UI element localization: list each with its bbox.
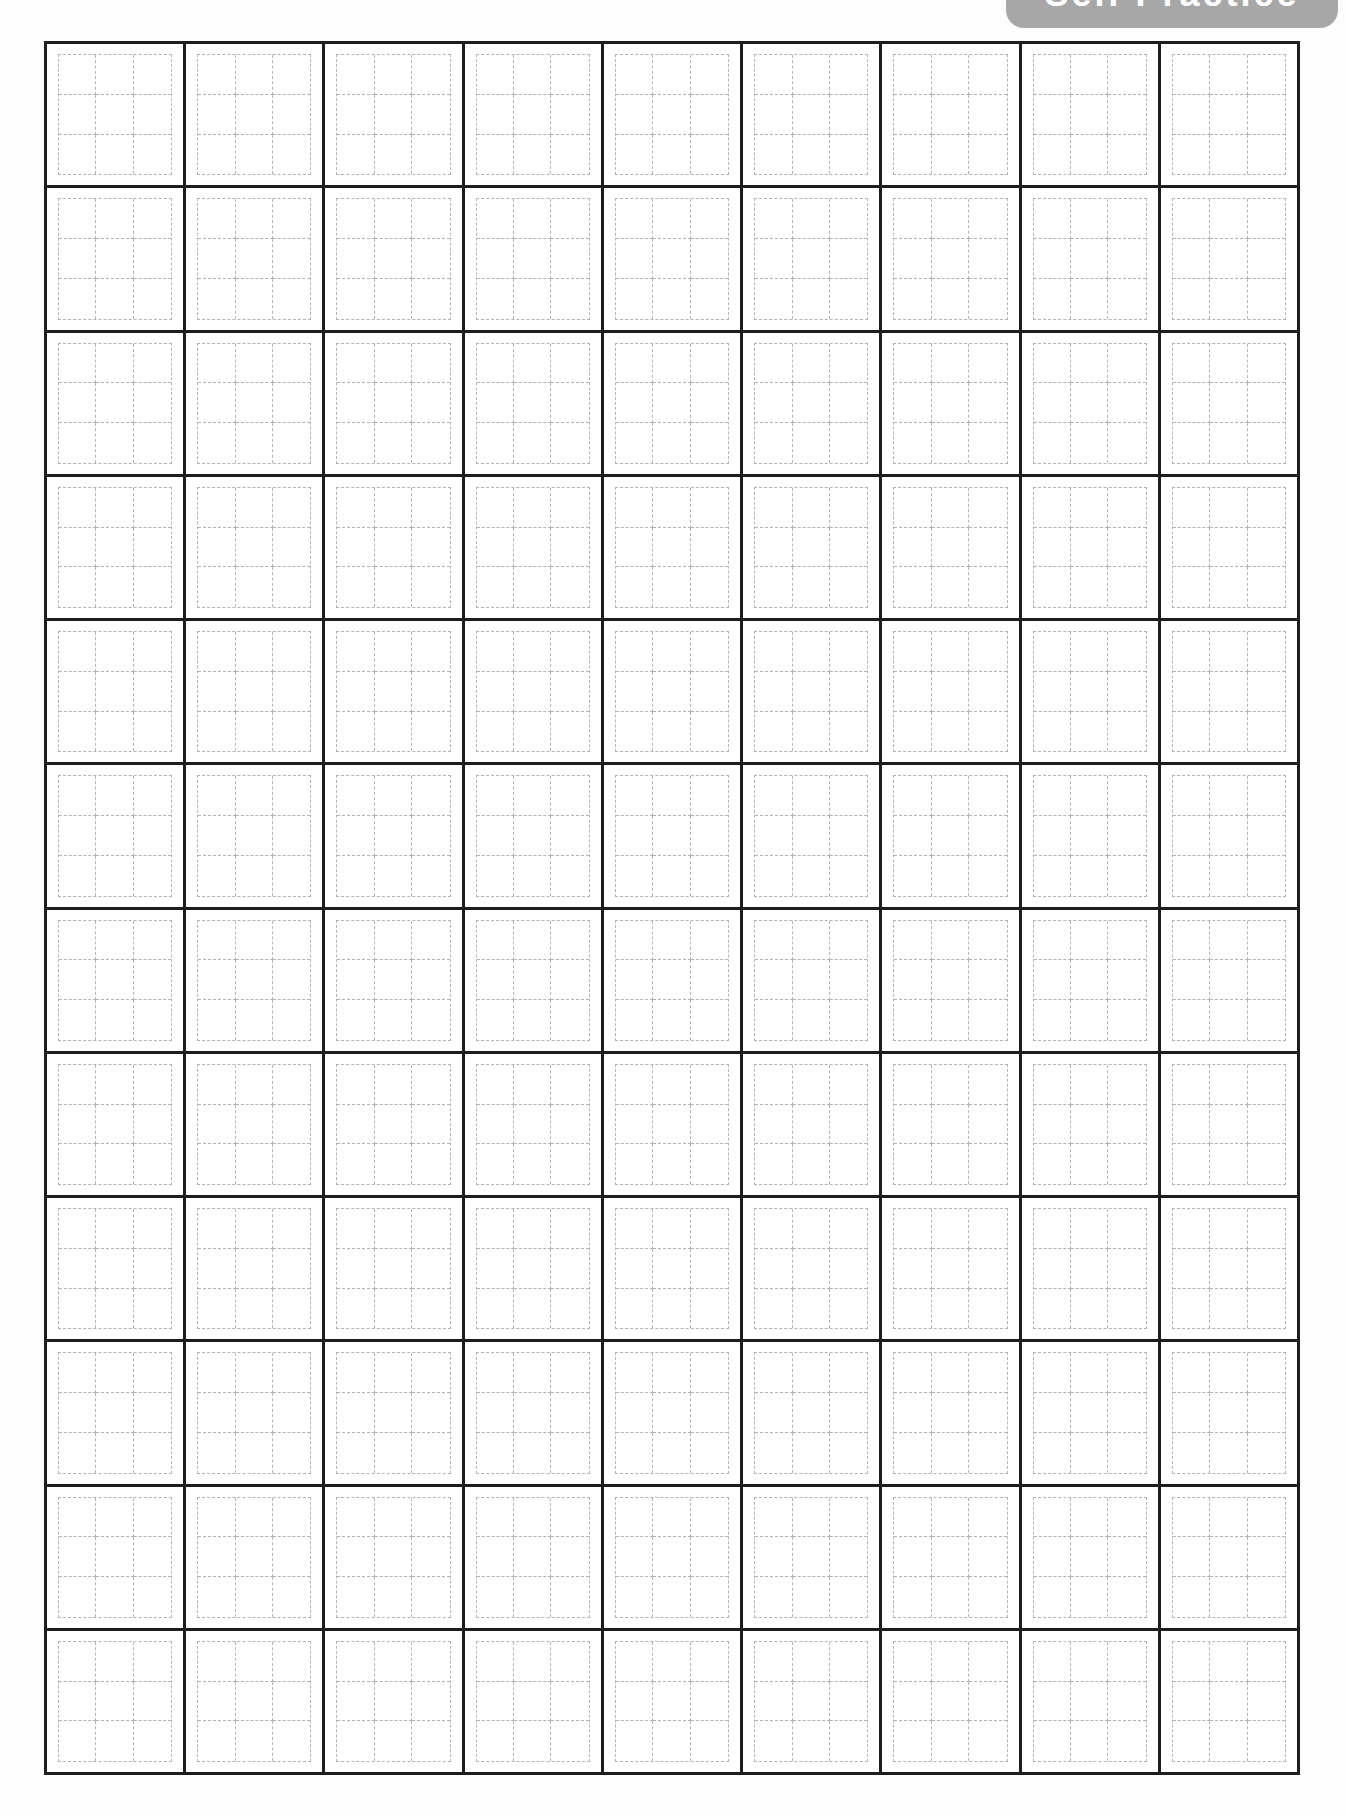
guide-sub-square <box>412 1065 449 1105</box>
guide-sub-square <box>477 1577 514 1617</box>
guide-sub-square <box>96 960 133 1000</box>
guide-sub-square <box>1108 55 1145 95</box>
guide-sub-square <box>337 239 374 279</box>
guide-sub-square <box>477 383 514 423</box>
guide-sub-square <box>514 1642 551 1682</box>
practice-cell <box>186 910 322 1051</box>
guide-sub-square <box>96 95 133 135</box>
guide-sub-square <box>969 528 1006 568</box>
guide-sub-square <box>198 1433 235 1473</box>
guide-sub-square <box>1173 921 1210 961</box>
guide-sub-square <box>894 55 931 95</box>
nine-square-guide <box>1172 1641 1286 1762</box>
guide-sub-square <box>59 95 96 135</box>
nine-square-guide <box>754 775 868 896</box>
guide-sub-square <box>830 1249 867 1289</box>
guide-sub-square <box>969 423 1006 463</box>
guide-sub-square <box>477 1537 514 1577</box>
guide-sub-square <box>198 712 235 752</box>
guide-sub-square <box>691 1105 728 1145</box>
guide-sub-square <box>96 1000 133 1040</box>
guide-sub-square <box>236 776 273 816</box>
guide-sub-square <box>691 1209 728 1249</box>
guide-sub-square <box>412 55 449 95</box>
guide-sub-square <box>273 488 310 528</box>
guide-sub-square <box>337 1144 374 1184</box>
guide-sub-square <box>134 1105 171 1145</box>
guide-sub-square <box>691 776 728 816</box>
nine-square-guide <box>197 920 311 1041</box>
guide-sub-square <box>412 1144 449 1184</box>
practice-cell <box>186 765 322 906</box>
guide-sub-square <box>691 921 728 961</box>
guide-sub-square <box>932 239 969 279</box>
guide-sub-square <box>236 528 273 568</box>
nine-square-guide <box>336 1641 450 1762</box>
guide-sub-square <box>477 135 514 175</box>
practice-cell <box>604 765 740 906</box>
guide-sub-square <box>96 816 133 856</box>
guide-sub-square <box>830 1000 867 1040</box>
guide-sub-square <box>134 55 171 95</box>
guide-sub-square <box>755 55 792 95</box>
guide-sub-square <box>755 672 792 712</box>
guide-sub-square <box>1034 528 1071 568</box>
nine-square-guide <box>893 1352 1007 1473</box>
guide-sub-square <box>969 135 1006 175</box>
guide-sub-square <box>894 135 931 175</box>
guide-sub-square <box>969 921 1006 961</box>
guide-sub-square <box>59 1642 96 1682</box>
guide-sub-square <box>134 1577 171 1617</box>
guide-sub-square <box>616 1353 653 1393</box>
guide-sub-square <box>96 1393 133 1433</box>
guide-sub-square <box>375 960 412 1000</box>
guide-sub-square <box>273 383 310 423</box>
guide-sub-square <box>653 1537 690 1577</box>
nine-square-guide <box>336 1497 450 1618</box>
guide-sub-square <box>551 135 588 175</box>
guide-sub-square <box>551 632 588 672</box>
guide-sub-square <box>134 1642 171 1682</box>
guide-sub-square <box>514 776 551 816</box>
guide-sub-square <box>337 776 374 816</box>
guide-sub-square <box>337 95 374 135</box>
guide-sub-square <box>96 239 133 279</box>
guide-sub-square <box>1034 1144 1071 1184</box>
guide-sub-square <box>337 55 374 95</box>
guide-sub-square <box>755 1105 792 1145</box>
guide-sub-square <box>551 1642 588 1682</box>
guide-sub-square <box>412 1209 449 1249</box>
nine-square-guide <box>197 1208 311 1329</box>
nine-square-guide <box>1033 54 1147 175</box>
guide-sub-square <box>412 1000 449 1040</box>
guide-sub-square <box>198 135 235 175</box>
guide-sub-square <box>691 1144 728 1184</box>
guide-sub-square <box>932 632 969 672</box>
guide-sub-square <box>236 1537 273 1577</box>
practice-cell <box>604 910 740 1051</box>
guide-sub-square <box>514 1105 551 1145</box>
guide-sub-square <box>755 816 792 856</box>
guide-sub-square <box>412 344 449 384</box>
guide-sub-square <box>412 960 449 1000</box>
guide-sub-square <box>1173 1642 1210 1682</box>
guide-sub-square <box>375 921 412 961</box>
guide-sub-square <box>1210 423 1247 463</box>
practice-cell <box>743 333 879 474</box>
guide-sub-square <box>412 383 449 423</box>
guide-sub-square <box>1248 567 1285 607</box>
guide-sub-square <box>551 1721 588 1761</box>
guide-sub-square <box>273 856 310 896</box>
guide-sub-square <box>793 672 830 712</box>
guide-sub-square <box>198 1249 235 1289</box>
guide-sub-square <box>932 672 969 712</box>
guide-sub-square <box>653 1065 690 1105</box>
guide-sub-square <box>1108 776 1145 816</box>
guide-sub-square <box>616 672 653 712</box>
guide-sub-square <box>337 528 374 568</box>
guide-sub-square <box>551 567 588 607</box>
practice-cell <box>743 621 879 762</box>
nine-square-guide <box>476 631 590 752</box>
guide-sub-square <box>273 199 310 239</box>
guide-sub-square <box>375 1537 412 1577</box>
